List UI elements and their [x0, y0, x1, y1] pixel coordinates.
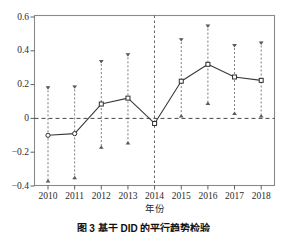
y-tick-label: 0	[24, 113, 29, 123]
x-tick-label: 2015	[172, 191, 191, 201]
error-bar-cap-upper	[72, 85, 77, 88]
x-tick-label: 2012	[92, 191, 111, 201]
x-tick-label: 2011	[65, 191, 84, 201]
y-tick-label: 0.4	[17, 45, 29, 55]
data-point-marker	[233, 75, 237, 79]
error-bar-cap-lower	[179, 114, 184, 117]
y-tick-label: 0.2	[17, 79, 29, 89]
error-bar-cap-upper	[206, 25, 211, 28]
x-axis-title: 年份	[145, 203, 165, 214]
line-chart-with-error-bars: 0.6 0.4 0.2 0 −0.2 −0.4 2010201120122013…	[0, 0, 287, 232]
error-bar-cap-upper	[259, 42, 264, 45]
error-bar-cap-upper	[232, 44, 237, 47]
error-bar-cap-upper	[99, 60, 104, 63]
x-tick-label: 2018	[252, 191, 271, 201]
error-bar-cap-lower	[259, 114, 264, 117]
error-bar-cap-lower	[46, 179, 51, 182]
error-bar-cap-lower	[206, 101, 211, 104]
figure-container: 0.6 0.4 0.2 0 −0.2 −0.4 2010201120122013…	[0, 0, 287, 232]
data-point-marker	[179, 79, 183, 83]
data-point-marker	[206, 62, 210, 66]
x-tick-label: 2014	[145, 191, 164, 201]
data-point-marker	[73, 132, 77, 136]
x-tick-label: 2016	[198, 191, 217, 201]
x-axis: 201020112012201320142015201620172018	[39, 186, 271, 202]
error-bar-cap-lower	[232, 112, 237, 115]
data-point-marker	[126, 96, 130, 100]
error-bar-cap-lower	[126, 141, 131, 144]
y-axis: 0.6 0.4 0.2 0 −0.2 −0.4	[12, 12, 35, 191]
x-tick-label: 2013	[118, 191, 137, 201]
y-tick-label: −0.2	[12, 147, 29, 157]
error-bars-group	[46, 25, 264, 183]
error-bar-cap-upper	[179, 38, 184, 41]
data-point-marker	[46, 133, 50, 137]
figure-caption: 图 3 基于 DID 的平行趋势检验	[77, 222, 212, 232]
y-tick-label: 0.6	[17, 12, 29, 22]
error-bar-cap-lower	[99, 145, 104, 148]
data-point-marker	[153, 121, 157, 125]
error-bar-cap-upper	[46, 86, 51, 89]
x-tick-label: 2010	[39, 191, 58, 201]
y-tick-label: −0.4	[12, 181, 29, 191]
x-tick-label: 2017	[225, 191, 244, 201]
error-bar-cap-lower	[72, 176, 77, 179]
data-point-marker	[259, 78, 263, 82]
error-bar-cap-upper	[126, 53, 131, 56]
data-point-marker	[99, 102, 103, 106]
